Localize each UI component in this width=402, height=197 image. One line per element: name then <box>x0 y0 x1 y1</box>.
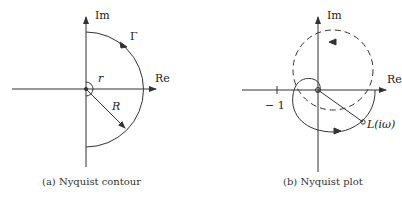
L-label: L(iω) <box>367 118 395 131</box>
R-label: R <box>112 100 120 113</box>
minus-one-label: − 1 <box>265 99 285 112</box>
im-axis-label-a: Im <box>95 9 110 22</box>
nyquist-plot-diagram <box>242 17 386 172</box>
caption-b: (b) Nyquist plot <box>283 176 363 187</box>
dashed-direction-arrow <box>329 39 336 45</box>
nyquist-figure <box>0 0 402 197</box>
r-label: r <box>98 72 103 85</box>
curve-direction-arrow <box>334 128 341 134</box>
im-axis-label-b: Im <box>327 9 342 22</box>
caption-a: (a) Nyquist contour <box>42 176 141 187</box>
re-axis-label-a: Re <box>155 72 170 85</box>
re-axis-label-b: Re <box>387 73 402 86</box>
L-vector <box>318 90 363 122</box>
gamma-direction-arrow <box>120 42 127 48</box>
gamma-label: Γ <box>130 30 138 43</box>
